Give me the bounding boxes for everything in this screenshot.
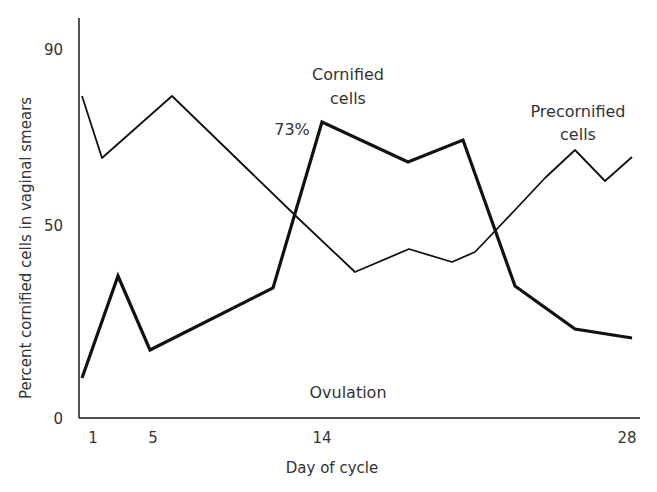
- y-tick-90: 90: [44, 41, 63, 59]
- x-tick-1: 1: [88, 429, 98, 447]
- precornified-label: Precornified: [531, 102, 626, 121]
- y-tick-0: 0: [53, 410, 63, 428]
- cornified-label-cells: cells: [330, 89, 366, 108]
- cornified-label: Cornified: [312, 65, 384, 84]
- x-tick-28: 28: [617, 429, 636, 447]
- x-tick-5: 5: [148, 429, 158, 447]
- precornified-cells-line: [82, 96, 632, 272]
- ovulation-label: Ovulation: [309, 383, 386, 402]
- x-tick-14: 14: [312, 429, 331, 447]
- chart: 90 50 0 1 5 14 28 Day of cycle Percent c…: [0, 0, 657, 492]
- y-tick-50: 50: [44, 217, 63, 235]
- cornified-cells-line: [82, 122, 632, 378]
- precornified-label-cells: cells: [560, 125, 596, 144]
- peak-value-label: 73%: [274, 120, 310, 139]
- y-axis-label: Percent cornified cells in vaginal smear…: [17, 97, 35, 399]
- x-axis-label: Day of cycle: [286, 459, 378, 477]
